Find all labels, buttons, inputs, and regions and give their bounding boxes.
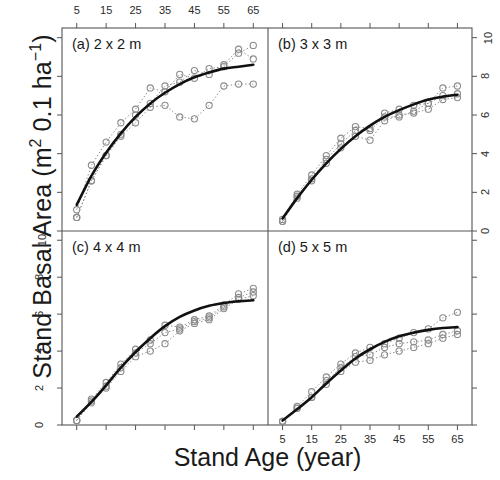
y-tick-label-left: 8	[33, 274, 45, 280]
y-tick-label-right: 8	[479, 73, 491, 79]
x-tick-label-bottom: 15	[306, 433, 318, 445]
panel-title-d: (d) 5 x 5 m	[278, 239, 347, 255]
y-tick-label-right: 2	[479, 189, 491, 195]
figure-panel-grid: Stand Basal Area (m2 0.1 ha−1) Stand Age…	[0, 0, 500, 480]
y-tick-label-left: 0	[33, 422, 45, 428]
data-line-b	[283, 98, 458, 222]
x-tick-label-bottom: 55	[422, 433, 434, 445]
x-tick-label-bottom: 45	[393, 433, 405, 445]
plot-canvas: (a) 2 x 2 m(b) 3 x 3 m(c) 4 x 4 m(d) 5 x…	[0, 0, 500, 480]
panel-title-c: (c) 4 x 4 m	[72, 239, 140, 255]
x-tick-label-top: 35	[159, 4, 171, 16]
data-point-marker	[454, 309, 460, 315]
x-tick-label-top: 25	[129, 4, 141, 16]
x-tick-label-bottom: 65	[451, 433, 463, 445]
data-line-a	[77, 49, 254, 217]
data-point-marker	[381, 352, 387, 358]
y-tick-label-left: 6	[33, 311, 45, 317]
data-line-b	[283, 94, 458, 222]
data-point-marker	[367, 137, 373, 143]
data-point-marker	[191, 67, 197, 73]
x-tick-label-bottom: 5	[280, 433, 286, 445]
data-point-marker	[381, 344, 387, 350]
y-tick-label-left: 4	[33, 348, 45, 354]
y-tick-label-right: 6	[479, 112, 491, 118]
y-tick-label-right: 4	[479, 151, 491, 157]
x-tick-label-top: 65	[247, 4, 259, 16]
x-tick-label-top: 15	[100, 4, 112, 16]
panel-title-b: (b) 3 x 3 m	[278, 36, 347, 52]
x-tick-label-top: 55	[218, 4, 230, 16]
x-tick-label-bottom: 25	[335, 433, 347, 445]
x-tick-label-bottom: 35	[364, 433, 376, 445]
data-line-a	[77, 45, 254, 209]
panel-d: (d) 5 x 5 m	[278, 239, 461, 424]
data-point-marker	[103, 139, 109, 145]
x-tick-label-top: 5	[74, 4, 80, 16]
x-tick-label-top: 45	[188, 4, 200, 16]
panel-c: (c) 4 x 4 m	[72, 239, 256, 423]
data-point-marker	[250, 293, 256, 299]
data-point-marker	[162, 330, 168, 336]
y-tick-label-left: 2	[33, 385, 45, 391]
y-tick-label-left: 10	[36, 234, 48, 246]
y-tick-label-right: 0	[479, 228, 491, 234]
data-line-c	[77, 292, 254, 420]
data-point-marker	[396, 348, 402, 354]
panel-title-a: (a) 2 x 2 m	[72, 36, 141, 52]
y-tick-label-right: 10	[482, 32, 494, 44]
data-point-marker	[162, 102, 168, 108]
fitted-curve-b	[283, 95, 458, 219]
panel-b: (b) 3 x 3 m	[278, 36, 461, 224]
data-point-marker	[177, 71, 183, 77]
fitted-curve-c	[77, 300, 254, 416]
data-line-a	[77, 84, 254, 217]
data-line-b	[283, 86, 458, 219]
panel-a: (a) 2 x 2 m	[72, 36, 256, 221]
data-line-c	[77, 296, 254, 421]
data-point-marker	[147, 348, 153, 354]
data-point-marker	[454, 83, 460, 89]
data-point-marker	[454, 331, 460, 337]
data-point-marker	[118, 120, 124, 126]
data-point-marker	[250, 56, 256, 62]
